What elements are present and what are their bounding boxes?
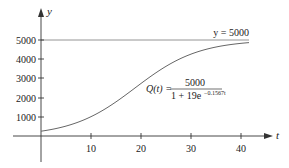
x-tick-label: 40 — [236, 143, 246, 154]
y-tick-label: 3000 — [16, 73, 36, 84]
logistic-curve — [41, 43, 249, 132]
y-tick-label: 5000 — [16, 35, 36, 46]
y-axis-arrow-icon — [38, 8, 44, 17]
y-tick-label: 4000 — [16, 54, 36, 65]
asymptote-label: y = 5000 — [213, 27, 249, 38]
y-axis-label: y — [46, 5, 52, 17]
x-axis-label: t — [276, 129, 280, 141]
formula-annotation: Q(t) = 5000 1 + 19e −0.1567t — [146, 77, 226, 101]
x-tick-label: 30 — [186, 143, 196, 154]
x-tick-label: 20 — [136, 143, 146, 154]
formula-exponent: −0.1567t — [204, 90, 226, 96]
y-tick-label: 1000 — [16, 112, 36, 123]
formula-lhs: Q(t) = — [146, 83, 172, 95]
logistic-growth-chart: 10 20 30 40 1000 2000 3000 4000 5000 y t… — [0, 0, 289, 168]
formula-denominator: 1 + 19e — [171, 90, 202, 101]
y-tick-label: 2000 — [16, 93, 36, 104]
formula-numerator: 5000 — [185, 77, 205, 88]
x-tick-label: 10 — [86, 143, 96, 154]
x-axis-arrow-icon — [264, 133, 273, 139]
